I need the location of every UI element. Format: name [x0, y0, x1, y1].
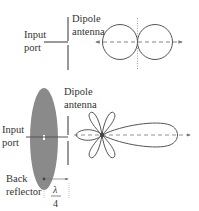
bottom-input-port-label-line2: port [2, 137, 19, 148]
back-reflector-label-line2: reflector [6, 186, 42, 197]
side-lobe-upper-left [89, 112, 102, 135]
pattern-origin [100, 133, 104, 137]
back-reflector-label-line1: Back [6, 173, 28, 184]
antenna-diagram: Input port Dipole antenna Input port Dip… [0, 0, 199, 211]
side-lobe-lower-left [89, 135, 102, 158]
bottom-directional-pattern [74, 112, 190, 158]
top-input-port-label-line2: port [24, 42, 41, 53]
top-dipole-antenna-label-line2: antenna [72, 26, 105, 37]
bottom-dipole-antenna-label-line1: Dipole [64, 86, 93, 97]
top-diagram: Input port Dipole antenna [24, 13, 182, 70]
top-input-port-label-line1: Input [24, 29, 46, 40]
top-dipole-antenna-label-line1: Dipole [72, 13, 101, 24]
lambda-numerator: λ [52, 184, 58, 195]
lambda-denominator: 4 [53, 198, 58, 209]
top-figure-eight-pattern [96, 18, 182, 70]
bottom-input-port-label-line1: Input [2, 124, 24, 135]
bottom-diagram: Input port Dipole antenna Back reflector… [2, 86, 190, 209]
bottom-dipole-antenna-label-line2: antenna [64, 99, 97, 110]
dimension-start-dot [43, 178, 46, 181]
